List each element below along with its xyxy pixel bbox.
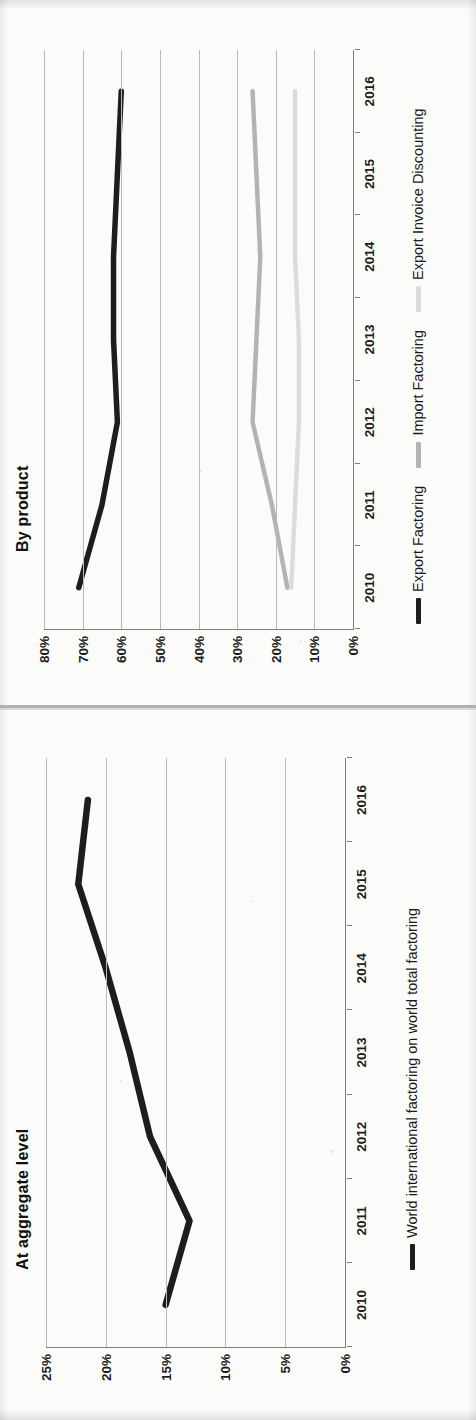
figure-at-aggregate-level: At aggregate level 25%20%15%10%5%0%20102… bbox=[0, 710, 476, 1420]
scan-speck bbox=[250, 900, 252, 902]
y-axis-tick-label: 50% bbox=[152, 636, 167, 663]
x-axis-tick bbox=[355, 463, 360, 464]
x-axis-tick bbox=[355, 214, 360, 215]
y-axis-tick-label: 10% bbox=[218, 1354, 233, 1381]
gridline bbox=[166, 758, 167, 1347]
figure-by-product: By product 80%70%60%50%40%30%20%10%0%201… bbox=[0, 0, 476, 702]
legend-line-swatch-icon bbox=[416, 442, 421, 468]
y-axis-tick-label: 10% bbox=[307, 636, 322, 663]
series-line bbox=[291, 91, 299, 587]
y-axis-tick-label: 40% bbox=[191, 636, 206, 663]
legend-line-swatch-icon bbox=[416, 598, 421, 624]
x-axis-tick bbox=[355, 49, 360, 50]
x-axis-tick bbox=[347, 841, 352, 842]
x-axis-tick-label: 2010 bbox=[354, 1290, 369, 1320]
gridline bbox=[106, 758, 107, 1347]
x-axis-tick bbox=[347, 925, 352, 926]
chart-by-product: By product 80%70%60%50%40%30%20%10%0%201… bbox=[0, 0, 476, 702]
scan-speck bbox=[200, 470, 202, 472]
gridline bbox=[199, 50, 200, 629]
gridline bbox=[237, 50, 238, 629]
series-line bbox=[253, 91, 288, 587]
scan-speck bbox=[120, 1080, 122, 1082]
y-axis-tick-label: 60% bbox=[114, 636, 129, 663]
legend-line-swatch-icon bbox=[410, 1244, 415, 1270]
x-axis-tick bbox=[355, 380, 360, 381]
gridline bbox=[121, 50, 122, 629]
scan-speck bbox=[330, 1150, 333, 1153]
legend-label: Import Factoring bbox=[410, 330, 426, 436]
y-axis-tick-label: 25% bbox=[39, 1354, 54, 1381]
legend-line-swatch-icon bbox=[416, 286, 421, 312]
x-axis-tick-label: 2012 bbox=[362, 407, 377, 437]
gridline bbox=[160, 50, 161, 629]
legend-label: Export Factoring bbox=[410, 486, 426, 592]
x-axis-tick-label: 2010 bbox=[362, 573, 377, 603]
scanned-page: By product 80%70%60%50%40%30%20%10%0%201… bbox=[0, 0, 476, 1420]
y-axis-tick-label: 80% bbox=[37, 636, 52, 663]
x-axis-tick bbox=[355, 628, 360, 629]
plot-area-by-product: 80%70%60%50%40%30%20%10%0%20102011201220… bbox=[44, 50, 354, 630]
x-axis-tick-label: 2014 bbox=[354, 953, 369, 983]
gridline bbox=[314, 50, 315, 629]
x-axis-tick bbox=[355, 132, 360, 133]
legend-item[interactable]: Import Factoring bbox=[410, 330, 426, 468]
x-axis-tick-label: 2015 bbox=[354, 869, 369, 899]
legend-label: Export Invoice Discounting bbox=[410, 108, 426, 280]
scan-speck bbox=[255, 250, 257, 252]
y-axis-tick-label: 20% bbox=[98, 1354, 113, 1381]
x-axis-tick-label: 2016 bbox=[354, 785, 369, 815]
y-axis-tick-label: 30% bbox=[230, 636, 245, 663]
x-axis-tick bbox=[347, 1009, 352, 1010]
legend-at-aggregate-level: World international factoring on world t… bbox=[404, 908, 420, 1270]
gridline bbox=[46, 758, 47, 1347]
gridline bbox=[44, 50, 45, 629]
x-axis-tick-label: 2011 bbox=[362, 490, 377, 519]
x-axis-tick-label: 2012 bbox=[354, 1122, 369, 1152]
gridline bbox=[83, 50, 84, 629]
figure-divider bbox=[0, 705, 476, 708]
legend-label: World international factoring on world t… bbox=[404, 908, 420, 1238]
x-axis-tick-label: 2011 bbox=[354, 1206, 369, 1235]
gridline bbox=[285, 758, 286, 1347]
chart-at-aggregate-level: At aggregate level 25%20%15%10%5%0%20102… bbox=[0, 710, 476, 1420]
x-axis-tick-label: 2013 bbox=[354, 1037, 369, 1067]
legend-item[interactable]: World international factoring on world t… bbox=[404, 908, 420, 1270]
x-axis-tick bbox=[347, 1178, 352, 1179]
x-axis-tick bbox=[347, 1346, 352, 1347]
series-line bbox=[79, 91, 121, 587]
y-axis-tick-label: 0% bbox=[338, 1354, 353, 1374]
gridline bbox=[225, 758, 226, 1347]
x-axis-tick-label: 2014 bbox=[362, 242, 377, 272]
y-axis-tick-label: 15% bbox=[158, 1354, 173, 1381]
y-axis-tick-label: 5% bbox=[278, 1354, 293, 1374]
y-axis-tick-label: 20% bbox=[268, 636, 283, 663]
y-axis-tick-label: 0% bbox=[346, 636, 361, 656]
x-axis-tick bbox=[347, 1262, 352, 1263]
x-axis-tick-label: 2013 bbox=[362, 324, 377, 354]
gridline bbox=[276, 50, 277, 629]
y-axis-tick-label: 70% bbox=[75, 636, 90, 663]
x-axis-tick-label: 2016 bbox=[362, 76, 377, 106]
x-axis-tick bbox=[347, 757, 352, 758]
x-axis-tick bbox=[347, 1094, 352, 1095]
plot-area-at-aggregate-level: 25%20%15%10%5%0%201020112012201320142015… bbox=[46, 758, 346, 1348]
x-axis-tick bbox=[355, 545, 360, 546]
scan-speck bbox=[300, 640, 302, 642]
legend-item[interactable]: Export Invoice Discounting bbox=[410, 108, 426, 312]
series-line bbox=[78, 800, 189, 1305]
chart-title-by-product: By product bbox=[14, 466, 32, 552]
x-axis-tick-label: 2015 bbox=[362, 159, 377, 189]
legend-item[interactable]: Export Factoring bbox=[410, 486, 426, 624]
x-axis-tick bbox=[355, 297, 360, 298]
series-layer-at-aggregate-level bbox=[46, 758, 345, 1347]
legend-by-product: Export FactoringImport FactoringExport I… bbox=[410, 108, 426, 624]
chart-title-at-aggregate-level: At aggregate level bbox=[14, 1129, 32, 1270]
